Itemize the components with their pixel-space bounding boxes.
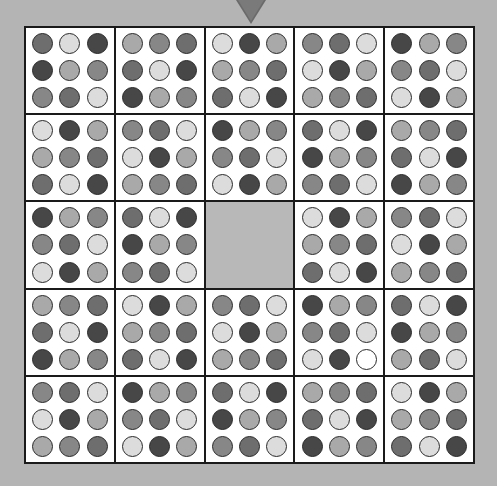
circle-icon xyxy=(212,120,233,141)
circle-icon xyxy=(239,174,260,195)
circle-icon xyxy=(329,349,350,370)
circle-icon xyxy=(391,147,412,168)
circle-icon xyxy=(356,322,377,343)
puzzle-block-r2-c3[interactable] xyxy=(295,202,383,287)
puzzle-block-r3-c2[interactable] xyxy=(206,290,294,375)
circle-icon xyxy=(239,120,260,141)
circle-icon xyxy=(391,322,412,343)
circle-icon xyxy=(176,234,197,255)
puzzle-block-r0-c3[interactable] xyxy=(295,28,383,113)
circle-icon xyxy=(149,409,170,430)
circle-icon xyxy=(59,87,80,108)
circle-icon xyxy=(122,147,143,168)
circle-icon xyxy=(149,87,170,108)
circle-icon xyxy=(59,295,80,316)
puzzle-block-r3-c4[interactable] xyxy=(385,290,473,375)
circle-icon xyxy=(356,33,377,54)
circle-icon xyxy=(87,295,108,316)
circle-icon xyxy=(419,33,440,54)
circle-icon xyxy=(329,87,350,108)
circle-icon xyxy=(446,174,467,195)
circle-icon xyxy=(239,60,260,81)
circle-icon xyxy=(329,174,350,195)
circle-icon xyxy=(446,382,467,403)
circle-icon xyxy=(122,60,143,81)
circle-icon xyxy=(59,60,80,81)
puzzle-block-r0-c2[interactable] xyxy=(206,28,294,113)
puzzle-block-r2-c0[interactable] xyxy=(26,202,114,287)
circle-icon xyxy=(419,322,440,343)
circle-icon xyxy=(32,382,53,403)
circle-icon xyxy=(391,87,412,108)
puzzle-block-r3-c1[interactable] xyxy=(116,290,204,375)
circle-icon xyxy=(149,174,170,195)
circle-icon xyxy=(446,436,467,457)
circle-icon xyxy=(302,295,323,316)
circle-icon xyxy=(87,436,108,457)
circle-icon xyxy=(329,295,350,316)
circle-icon xyxy=(239,436,260,457)
circle-icon xyxy=(32,234,53,255)
circle-icon xyxy=(59,262,80,283)
puzzle-block-r3-c3[interactable] xyxy=(295,290,383,375)
puzzle-block-r4-c3[interactable] xyxy=(295,377,383,462)
puzzle-block-r1-c2[interactable] xyxy=(206,115,294,200)
puzzle-block-r4-c0[interactable] xyxy=(26,377,114,462)
puzzle-block-r4-c2[interactable] xyxy=(206,377,294,462)
circle-icon xyxy=(391,262,412,283)
circle-icon xyxy=(212,436,233,457)
circle-icon xyxy=(122,409,143,430)
empty-slot[interactable] xyxy=(206,202,294,287)
puzzle-block-r4-c4[interactable] xyxy=(385,377,473,462)
circle-icon xyxy=(356,262,377,283)
circle-icon xyxy=(266,382,287,403)
puzzle-block-r1-c0[interactable] xyxy=(26,115,114,200)
circle-icon xyxy=(391,120,412,141)
circle-icon xyxy=(266,174,287,195)
puzzle-block-r2-c4[interactable] xyxy=(385,202,473,287)
circle-icon xyxy=(212,382,233,403)
circle-icon xyxy=(122,382,143,403)
puzzle-block-r1-c4[interactable] xyxy=(385,115,473,200)
puzzle-block-r2-c1[interactable] xyxy=(116,202,204,287)
puzzle-board xyxy=(24,26,475,464)
puzzle-block-r0-c1[interactable] xyxy=(116,28,204,113)
puzzle-block-r3-c0[interactable] xyxy=(26,290,114,375)
circle-icon xyxy=(356,87,377,108)
circle-icon xyxy=(32,349,53,370)
circle-icon xyxy=(59,207,80,228)
circle-icon xyxy=(87,120,108,141)
circle-icon xyxy=(122,234,143,255)
puzzle-block-r0-c0[interactable] xyxy=(26,28,114,113)
circle-icon xyxy=(32,87,53,108)
circle-icon xyxy=(176,436,197,457)
circle-icon xyxy=(302,120,323,141)
circle-icon xyxy=(329,60,350,81)
puzzle-block-r1-c3[interactable] xyxy=(295,115,383,200)
circle-icon xyxy=(446,295,467,316)
circle-icon xyxy=(32,436,53,457)
circle-icon xyxy=(122,174,143,195)
circle-icon xyxy=(266,87,287,108)
circle-icon xyxy=(356,120,377,141)
circle-icon xyxy=(356,436,377,457)
circle-icon xyxy=(122,120,143,141)
circle-icon xyxy=(239,349,260,370)
circle-icon xyxy=(391,207,412,228)
circle-icon xyxy=(176,295,197,316)
circle-icon xyxy=(356,147,377,168)
circle-icon xyxy=(32,33,53,54)
circle-icon xyxy=(419,436,440,457)
circle-icon xyxy=(212,349,233,370)
puzzle-block-r1-c1[interactable] xyxy=(116,115,204,200)
puzzle-block-r0-c4[interactable] xyxy=(385,28,473,113)
circle-icon xyxy=(446,60,467,81)
circle-icon xyxy=(149,322,170,343)
circle-icon xyxy=(176,409,197,430)
puzzle-block-r4-c1[interactable] xyxy=(116,377,204,462)
circle-icon xyxy=(329,436,350,457)
circle-icon xyxy=(59,409,80,430)
circle-icon xyxy=(302,322,323,343)
circle-icon xyxy=(391,382,412,403)
circle-icon xyxy=(176,262,197,283)
